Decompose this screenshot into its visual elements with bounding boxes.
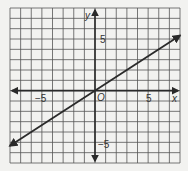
coordinate-plane: y x O −5 5 5 −5 [0, 0, 188, 171]
origin-label: O [97, 92, 105, 103]
x-tick-5: 5 [146, 93, 152, 104]
x-tick-neg5: −5 [35, 93, 47, 104]
y-tick-neg5: −5 [98, 139, 110, 150]
x-axis-label: x [171, 93, 178, 104]
axes [12, 10, 178, 161]
y-tick-5: 5 [100, 34, 106, 45]
y-axis-label: y [84, 10, 91, 21]
